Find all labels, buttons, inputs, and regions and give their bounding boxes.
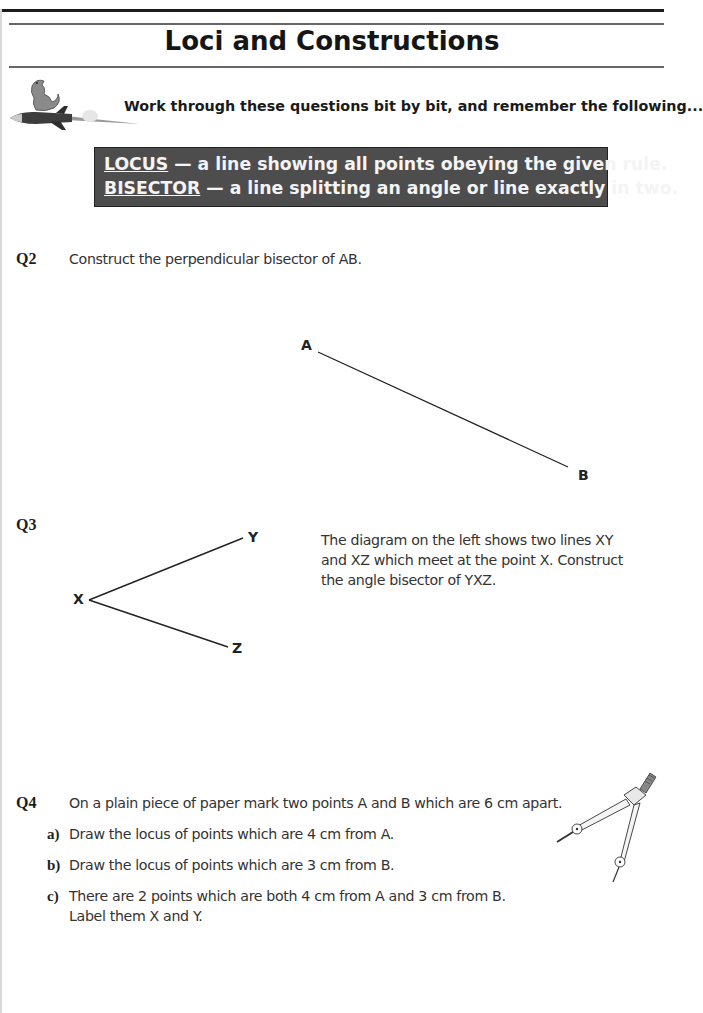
intro-text: Work through these questions bit by bit,… (124, 98, 703, 114)
q3-text-line: The diagram on the left shows two lines … (321, 530, 661, 550)
point-label-y: Y (248, 529, 258, 545)
question-text-q3: The diagram on the left shows two lines … (321, 530, 661, 590)
definition-term: LOCUS (104, 154, 168, 174)
part-text-a: Draw the locus of points which are 4 cm … (69, 826, 394, 842)
point-label-a: A (301, 337, 312, 353)
definitions-box: LOCUS — a line showing all points obeyin… (94, 147, 608, 207)
question-text-q2: Construct the perpendicular bisector of … (69, 251, 362, 267)
question-label-q4: Q4 (16, 794, 36, 812)
page-top-border (0, 9, 664, 12)
part-text-b: Draw the locus of points which are 3 cm … (69, 857, 394, 873)
definition-text: — a line showing all points obeying the … (168, 154, 667, 174)
page-left-border (0, 9, 2, 1013)
question-label-q2: Q2 (16, 250, 36, 268)
point-label-x: X (73, 591, 84, 607)
point-label-b: B (578, 467, 589, 483)
question-text-q4: On a plain piece of paper mark two point… (69, 795, 562, 811)
definition-term: BISECTOR (104, 178, 200, 198)
part-label-b: b) (47, 857, 60, 874)
part-text-c-line1: There are 2 points which are both 4 cm f… (69, 888, 506, 904)
q3-text-line: the angle bisector of YXZ. (321, 570, 661, 590)
title-rule-top (9, 23, 664, 25)
compass-drawing-tool-icon (550, 765, 664, 885)
part-text-c-line2: Label them X and Y. (69, 908, 202, 924)
part-label-c: c) (47, 888, 59, 905)
definition-bisector: BISECTOR — a line splitting an angle or … (104, 176, 607, 200)
title-rule-bottom (9, 66, 664, 68)
definition-text: — a line splitting an angle or line exac… (200, 178, 678, 198)
question-label-q3: Q3 (16, 516, 36, 534)
definition-locus: LOCUS — a line showing all points obeyin… (104, 152, 607, 176)
point-label-z: Z (232, 640, 242, 656)
page-title: Loci and Constructions (0, 26, 664, 56)
part-label-a: a) (47, 826, 60, 843)
q3-text-line: and XZ which meet at the point X. Constr… (321, 550, 661, 570)
